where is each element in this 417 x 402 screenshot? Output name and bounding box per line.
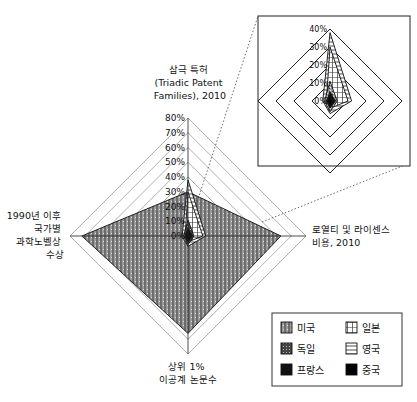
inset-connector-right bbox=[262, 163, 410, 222]
inset-tick-label: 0% bbox=[314, 97, 327, 106]
legend-swatch-uk bbox=[346, 343, 357, 354]
tick-label: 30% bbox=[165, 187, 185, 197]
tick-label: 50% bbox=[165, 157, 185, 167]
tick-label: 40% bbox=[165, 172, 185, 182]
legend-swatch-cn bbox=[346, 364, 357, 375]
legend-label-us: 미국 bbox=[297, 323, 315, 334]
legend-label-de: 독일 bbox=[297, 344, 315, 355]
legend-swatch-fr bbox=[281, 364, 292, 375]
legend-label-jp: 일본 bbox=[362, 323, 380, 334]
main-tick-labels: 0%10%20%30%40%50%60%70%80% bbox=[165, 113, 185, 241]
inset-tick-label: 30% bbox=[309, 43, 327, 52]
legend-swatch-de bbox=[281, 343, 292, 354]
legend: 미국일본독일영국프랑스중국 bbox=[272, 313, 402, 386]
tick-label: 10% bbox=[165, 216, 185, 226]
legend-label-uk: 영국 bbox=[362, 344, 380, 355]
legend-swatch-jp bbox=[346, 322, 357, 333]
legend-label-fr: 프랑스 bbox=[297, 365, 324, 376]
tick-label: 80% bbox=[165, 113, 185, 123]
radar-chart: 0%10%20%30%40%50%60%70%80% 삼극 특허 (Triadi… bbox=[0, 0, 417, 402]
axis-label-royalty: 로열티 및 라이센스 비용, 2010 bbox=[312, 224, 393, 248]
axis-label-triadic: 삼극 특허 (Triadic Patent Families), 2010 bbox=[154, 64, 226, 101]
legend-swatch-us bbox=[281, 322, 292, 333]
tick-label: 0% bbox=[171, 231, 186, 241]
axis-label-nobel: 1990년 이후 국가별 과학노벨상 수상 bbox=[7, 210, 64, 260]
legend-label-cn: 중국 bbox=[362, 365, 380, 376]
inset-tick-label: 40% bbox=[309, 25, 327, 34]
tick-label: 20% bbox=[165, 202, 185, 212]
axis-label-papers: 상위 1% 이공계 논문수 bbox=[159, 361, 216, 385]
inset-tick-label: 20% bbox=[309, 61, 327, 70]
inset-connector-left bbox=[196, 16, 258, 205]
tick-label: 70% bbox=[165, 128, 185, 138]
tick-label: 60% bbox=[165, 143, 185, 153]
series-us bbox=[82, 192, 281, 334]
inset-tick-label: 10% bbox=[309, 79, 327, 88]
